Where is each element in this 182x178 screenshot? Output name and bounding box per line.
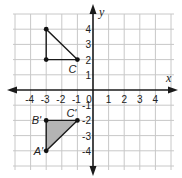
- x-axis-arrow-right-icon: [168, 87, 178, 94]
- x-axis-arrow-left-icon: [7, 87, 17, 94]
- x-tick-label: -2: [56, 94, 65, 105]
- y-tick-label: 2: [85, 55, 91, 66]
- y-tick-label: 1: [85, 70, 91, 81]
- vertex-point: [44, 27, 49, 32]
- vertex-label: A': [33, 145, 44, 157]
- y-axis-arrow-up-icon: [90, 4, 97, 14]
- x-tick-label: 4: [153, 94, 159, 105]
- vertex-point: [44, 57, 49, 62]
- x-tick-label: 3: [137, 94, 143, 105]
- y-tick-label: 3: [85, 39, 91, 50]
- vertex-label: B': [32, 114, 42, 126]
- vertex-point: [44, 148, 49, 153]
- x-tick-label: -4: [25, 94, 34, 105]
- coordinate-plane: x y -4-3-2-1012341234-1-2-3-4 CA'B'C': [0, 0, 182, 178]
- x-axis-label: x: [165, 71, 172, 85]
- x-tick-label: -3: [41, 94, 50, 105]
- y-tick-label: 4: [85, 24, 91, 35]
- x-tick-label: 1: [106, 94, 112, 105]
- y-axis-arrow-down-icon: [90, 166, 97, 176]
- vertex-label: C': [66, 107, 77, 119]
- x-tick-label: -1: [72, 94, 81, 105]
- y-axis-label: y: [98, 5, 105, 19]
- y-tick-label: -1: [82, 100, 91, 111]
- vertex-point: [75, 57, 80, 62]
- y-tick-label: -3: [82, 131, 91, 142]
- vertex-point: [44, 118, 49, 123]
- y-tick-label: -4: [82, 146, 91, 157]
- y-tick-label: -2: [82, 115, 91, 126]
- vertex-label: C: [68, 63, 76, 75]
- shapes: CA'B'C': [32, 27, 80, 157]
- triangle-image: A'B'C': [32, 107, 80, 156]
- axes: x y: [7, 4, 178, 176]
- x-tick-label: 2: [121, 94, 127, 105]
